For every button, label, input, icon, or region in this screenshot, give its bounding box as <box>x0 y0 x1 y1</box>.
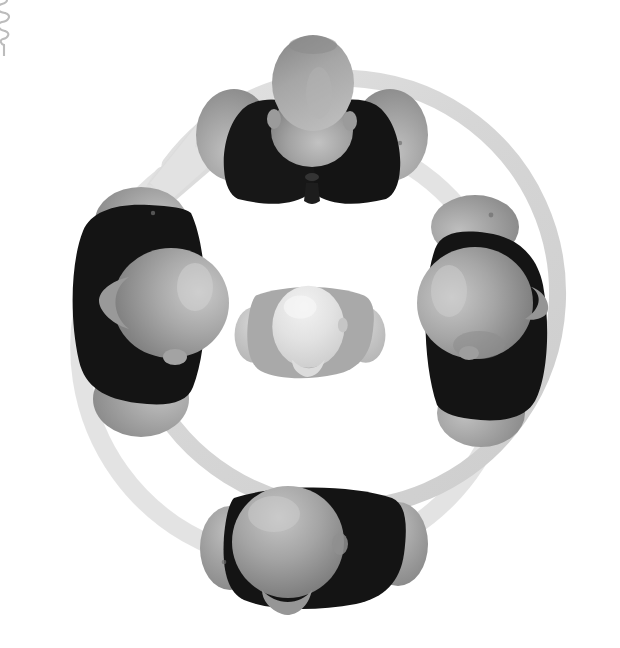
figure-left-facing-right <box>53 191 233 441</box>
figure-center-reference-ghost <box>238 274 382 386</box>
figure-right-facing-left <box>395 195 565 445</box>
figure-bottom-facing-up <box>200 470 430 620</box>
illustration-page <box>0 0 620 648</box>
figure-top-facing-down <box>192 27 432 217</box>
